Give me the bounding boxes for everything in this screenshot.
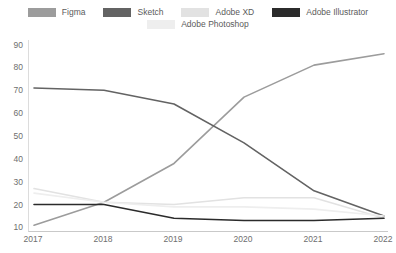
legend-item-adobe-xd[interactable]: Adobe XD [181, 8, 254, 17]
series-lines [29, 40, 389, 232]
legend-label-sketch: Sketch [137, 8, 163, 17]
y-axis-tick-90: 90 [14, 40, 23, 50]
y-axis-tick-20: 20 [14, 200, 23, 210]
y-axis-tick-40: 40 [14, 154, 23, 164]
x-axis-tick-2018: 2018 [94, 234, 113, 244]
y-axis-tick-70: 70 [14, 85, 23, 95]
legend-item-figma[interactable]: Figma [28, 8, 86, 17]
legend-item-adobe-photoshop[interactable]: Adobe Photoshop [147, 20, 249, 29]
chart-legend: Figma Sketch Adobe XD Adobe Illustrator … [0, 8, 396, 29]
x-axis-tick-2020: 2020 [234, 234, 253, 244]
legend-row-primary: Figma Sketch Adobe XD Adobe Illustrator [19, 8, 377, 17]
legend-item-adobe-illustrator[interactable]: Adobe Illustrator [272, 8, 368, 17]
series-line-adobe-xd [34, 189, 384, 219]
x-axis-tick-2017: 2017 [24, 234, 43, 244]
y-axis-tick-30: 30 [14, 177, 23, 187]
legend-swatch-figma [28, 8, 56, 17]
x-axis-tick-2019: 2019 [164, 234, 183, 244]
series-line-sketch [34, 88, 384, 216]
legend-swatch-adobe-illustrator [272, 8, 300, 17]
legend-label-adobe-illustrator: Adobe Illustrator [306, 8, 368, 17]
legend-label-adobe-photoshop: Adobe Photoshop [181, 20, 249, 29]
x-axis-tick-2021: 2021 [304, 234, 323, 244]
legend-label-figma: Figma [62, 8, 86, 17]
legend-item-sketch[interactable]: Sketch [103, 8, 163, 17]
legend-swatch-sketch [103, 8, 131, 17]
y-axis-labels: 102030405060708090 [0, 40, 26, 232]
x-axis-labels: 201720182019202020212022 [28, 234, 388, 248]
plot-area [28, 40, 388, 232]
x-axis-tick-2022: 2022 [374, 234, 393, 244]
y-axis-tick-60: 60 [14, 108, 23, 118]
legend-row-secondary: Adobe Photoshop [138, 20, 258, 29]
legend-swatch-adobe-photoshop [147, 20, 175, 29]
line-chart: Figma Sketch Adobe XD Adobe Illustrator … [0, 0, 396, 253]
y-axis-tick-50: 50 [14, 131, 23, 141]
y-axis-tick-10: 10 [14, 222, 23, 232]
legend-swatch-adobe-xd [181, 8, 209, 17]
legend-label-adobe-xd: Adobe XD [215, 8, 254, 17]
y-axis-tick-80: 80 [14, 62, 23, 72]
